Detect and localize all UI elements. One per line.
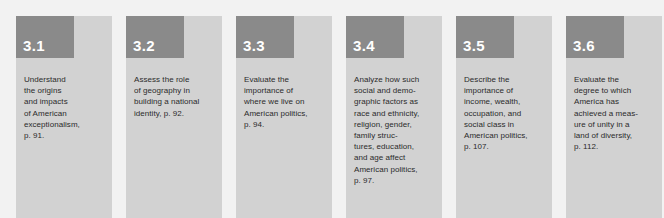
- objective-text: Evaluate the degree to which America has…: [574, 74, 654, 152]
- objective-number: 3.3: [243, 38, 265, 53]
- objective-number-block: 3.3: [236, 16, 294, 58]
- objective-body: Evaluate the degree to which America has…: [566, 58, 662, 152]
- objective-number-block: 3.4: [346, 16, 404, 58]
- objective-number: 3.4: [353, 38, 375, 53]
- objective-body: Evaluate the importance of where we live…: [236, 58, 332, 130]
- objective-card[interactable]: 3.6 Evaluate the degree to which America…: [566, 16, 662, 218]
- objective-text: Assess the role of geography in building…: [134, 74, 214, 119]
- objective-card[interactable]: 3.4 Analyze how such social and demo- gr…: [346, 16, 442, 218]
- objective-number: 3.2: [133, 38, 155, 53]
- objective-card[interactable]: 3.3 Evaluate the importance of where we …: [236, 16, 332, 218]
- objective-number: 3.5: [463, 38, 485, 53]
- objective-number-block: 3.2: [126, 16, 184, 58]
- objective-card[interactable]: 3.2 Assess the role of geography in buil…: [126, 16, 222, 218]
- objective-card[interactable]: 3.5 Describe the importance of income, w…: [456, 16, 552, 218]
- objective-number: 3.1: [23, 38, 45, 53]
- objective-text: Understand the origins and impacts of Am…: [24, 74, 104, 141]
- objective-body: Describe the importance of income, wealt…: [456, 58, 552, 152]
- objective-text: Describe the importance of income, wealt…: [464, 74, 544, 152]
- objective-number-block: 3.1: [16, 16, 74, 58]
- objective-number: 3.6: [573, 38, 595, 53]
- objective-body: Assess the role of geography in building…: [126, 58, 222, 119]
- learning-objectives-strip: 3.1 Understand the origins and impacts o…: [16, 16, 662, 218]
- objective-number-block: 3.5: [456, 16, 514, 58]
- objective-number-block: 3.6: [566, 16, 624, 58]
- objective-body: Analyze how such social and demo- graphi…: [346, 58, 442, 186]
- objective-text: Analyze how such social and demo- graphi…: [354, 74, 434, 186]
- objective-text: Evaluate the importance of where we live…: [244, 74, 324, 130]
- objective-body: Understand the origins and impacts of Am…: [16, 58, 112, 141]
- objective-card[interactable]: 3.1 Understand the origins and impacts o…: [16, 16, 112, 218]
